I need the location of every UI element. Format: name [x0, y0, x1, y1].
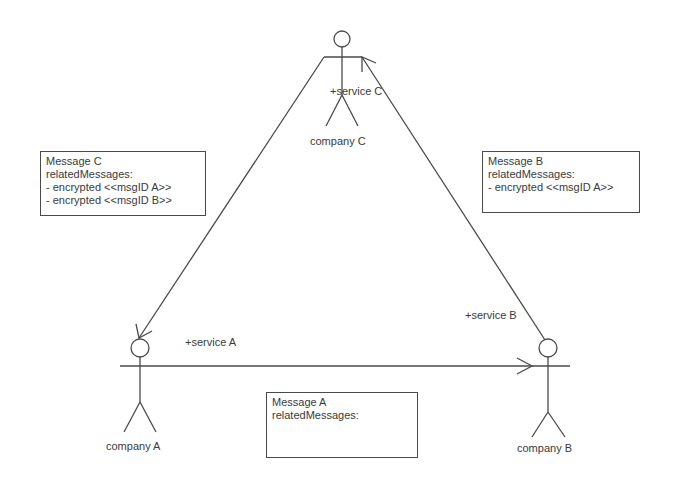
actor-company-a-name: company A: [106, 440, 160, 453]
actor-company-c-name: company C: [310, 135, 366, 148]
note-message-c-item: - encrypted <<msgID A>>: [46, 181, 200, 194]
note-message-b[interactable]: Message B relatedMessages: - encrypted <…: [482, 151, 640, 213]
note-message-a-title: Message A: [272, 396, 412, 409]
note-message-a-subtitle: relatedMessages:: [272, 409, 412, 422]
role-service-a: +service A: [185, 336, 236, 349]
role-service-c: +service C: [330, 85, 382, 98]
note-message-c-subtitle: relatedMessages:: [46, 168, 200, 181]
note-message-b-item: - encrypted <<msgID A>>: [488, 181, 634, 194]
note-message-b-subtitle: relatedMessages:: [488, 168, 634, 181]
actor-company-b-figure[interactable]: [532, 339, 565, 437]
actor-company-a-figure[interactable]: [124, 339, 156, 432]
role-service-b: +service B: [465, 309, 517, 322]
note-message-c-title: Message C: [46, 155, 200, 168]
association-a-to-b[interactable]: [120, 358, 570, 374]
note-message-b-title: Message B: [488, 155, 634, 168]
note-message-c[interactable]: Message C relatedMessages: - encrypted <…: [40, 151, 206, 216]
note-message-a[interactable]: Message A relatedMessages:: [266, 392, 418, 458]
actor-company-c-figure[interactable]: [324, 31, 362, 126]
note-message-c-item: - encrypted <<msgID B>>: [46, 194, 200, 207]
actor-company-b-name: company B: [517, 442, 572, 455]
